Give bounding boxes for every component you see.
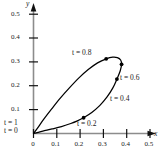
- annotation-t-0: t = 0: [4, 127, 18, 135]
- annotation-t-0.2: t = 0.2: [77, 120, 96, 128]
- y-tick-label-0.4: 0.4: [11, 34, 20, 41]
- x-tick-label-0.5: 0.5: [145, 141, 154, 148]
- y-tick-label-0.3: 0.3: [11, 58, 20, 65]
- y-tick-label-0.5: 0.5: [11, 11, 20, 18]
- y-tick-label-0.2: 0.2: [11, 82, 20, 89]
- x-tick-label-0.3: 0.3: [98, 141, 107, 148]
- marker-t-0.4: [115, 77, 119, 81]
- annotation-t-0.6: t = 0.6: [120, 74, 139, 82]
- parameter-point-markers: [82, 57, 124, 120]
- y-tick-label-0.1: 0.1: [11, 106, 20, 113]
- annotation-t-0.8: t = 0.8: [72, 49, 91, 57]
- y-axis-label: y: [26, 0, 29, 8]
- y-axis-arrow-icon: [31, 3, 37, 12]
- marker-t-0.8: [104, 57, 108, 61]
- x-axis-label: x: [154, 130, 157, 138]
- parametric-curve-figure: y x 0.5 0.4 0.3 0.2 0.1 0 0.1 0.2 0.3 0.…: [0, 0, 161, 153]
- annotation-t-0.4: t = 0.4: [110, 95, 129, 103]
- marker-t-0.6: [120, 62, 124, 66]
- x-tick-label-0.2: 0.2: [75, 141, 84, 148]
- x-tick-label-0.4: 0.4: [121, 141, 130, 148]
- x-tick-label-0.1: 0.1: [51, 141, 60, 148]
- x-tick-label-0: 0: [31, 141, 35, 148]
